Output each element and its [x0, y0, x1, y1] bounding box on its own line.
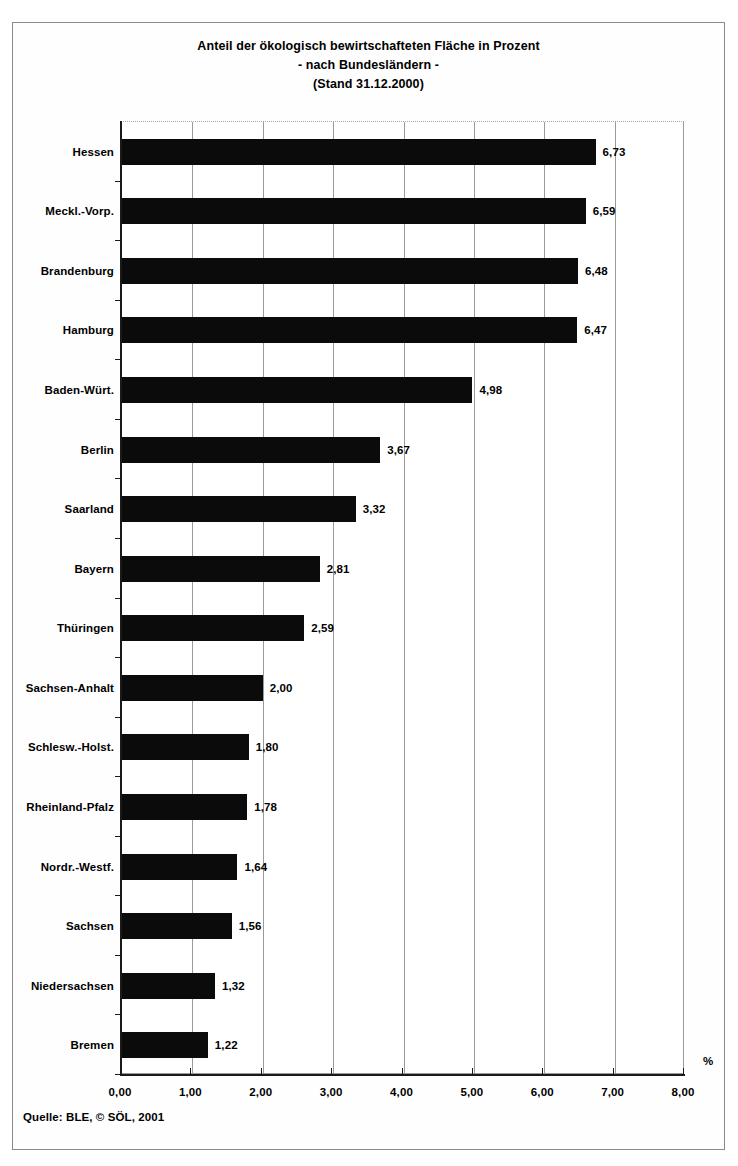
chart-title-line-3: (Stand 31.12.2000) — [13, 75, 724, 94]
bar-row: 1,22 — [122, 1032, 683, 1058]
plot-area: 6,736,596,486,474,983,673,322,812,592,00… — [121, 121, 684, 1074]
bar-row: 6,47 — [122, 317, 683, 343]
category-label: Hessen — [0, 146, 114, 158]
x-axis-tick-label: 8,00 — [672, 1086, 695, 1098]
bar-value-label: 6,73 — [603, 146, 626, 158]
category-label: Brandenburg — [0, 265, 114, 277]
x-axis-tick-label: 3,00 — [320, 1086, 343, 1098]
bar-row: 1,32 — [122, 973, 683, 999]
bar-row: 3,67 — [122, 437, 683, 463]
y-axis-tick — [115, 419, 120, 420]
y-axis-tick — [115, 240, 120, 241]
x-axis-tick-label: 1,00 — [179, 1086, 202, 1098]
x-axis-tick — [542, 1068, 543, 1076]
chart-title-line-1: Anteil der ökologisch bewirtschafteten F… — [13, 37, 724, 56]
bar — [122, 854, 237, 880]
bar — [122, 437, 380, 463]
x-axis-tick-label: 6,00 — [531, 1086, 554, 1098]
x-axis-tick-label: 2,00 — [249, 1086, 272, 1098]
bar-row: 6,59 — [122, 198, 683, 224]
source-note: Quelle: BLE, © SÖL, 2001 — [23, 1111, 164, 1123]
y-axis-tick — [115, 359, 120, 360]
bar-value-label: 1,32 — [222, 980, 245, 992]
bar-value-label: 1,78 — [254, 801, 277, 813]
y-axis-tick — [115, 836, 120, 837]
bar-value-label: 3,32 — [363, 503, 386, 515]
category-label: Thüringen — [0, 622, 114, 634]
x-axis-tick — [120, 1068, 121, 1076]
bar — [122, 556, 320, 582]
category-label: Saarland — [0, 503, 114, 515]
page-frame: Anteil der ökologisch bewirtschafteten F… — [12, 22, 725, 1150]
bar — [122, 258, 578, 284]
x-axis-tick — [190, 1068, 191, 1076]
bar-row: 2,00 — [122, 675, 683, 701]
bar — [122, 615, 304, 641]
x-axis-tick — [613, 1068, 614, 1076]
bar — [122, 913, 232, 939]
x-axis-tick-label: 0,00 — [109, 1086, 132, 1098]
bar-value-label: 2,81 — [327, 563, 350, 575]
bar-row: 2,81 — [122, 556, 683, 582]
bar-value-label: 4,98 — [479, 384, 502, 396]
bar-value-label: 1,80 — [256, 741, 279, 753]
bar-value-label: 2,00 — [270, 682, 293, 694]
x-axis-tick — [472, 1068, 473, 1076]
bar-row: 6,73 — [122, 139, 683, 165]
bar-value-label: 3,67 — [387, 444, 410, 456]
y-axis-tick — [115, 955, 120, 956]
bar — [122, 317, 577, 343]
x-axis-tick — [261, 1068, 262, 1076]
category-label: Bremen — [0, 1039, 114, 1051]
y-axis-tick — [115, 657, 120, 658]
bar — [122, 973, 215, 999]
y-axis-tick — [115, 776, 120, 777]
category-axis-labels: HessenMeckl.-Vorp.BrandenburgHamburgBade… — [0, 122, 114, 1075]
bar-row: 1,80 — [122, 734, 683, 760]
bar-row: 1,56 — [122, 913, 683, 939]
bar-value-label: 1,22 — [215, 1039, 238, 1051]
category-label: Rheinland-Pfalz — [0, 801, 114, 813]
bar-value-label: 6,48 — [585, 265, 608, 277]
x-axis-tick — [402, 1068, 403, 1076]
bar — [122, 139, 596, 165]
bar-value-label: 6,47 — [584, 324, 607, 336]
category-label: Schlesw.-Holst. — [0, 741, 114, 753]
bar-value-label: 1,56 — [239, 920, 262, 932]
bar-row: 1,64 — [122, 854, 683, 880]
x-axis-tick-label: 7,00 — [601, 1086, 624, 1098]
category-label: Niedersachsen — [0, 980, 114, 992]
x-axis-tick — [331, 1068, 332, 1076]
y-axis-tick — [115, 717, 120, 718]
bar — [122, 377, 472, 403]
x-axis-spine — [120, 1074, 685, 1076]
bar — [122, 496, 356, 522]
category-label: Meckl.-Vorp. — [0, 205, 114, 217]
bar — [122, 1032, 208, 1058]
chart-title: Anteil der ökologisch bewirtschafteten F… — [13, 37, 724, 94]
chart-title-line-2: - nach Bundesländern - — [13, 56, 724, 75]
bar — [122, 675, 263, 701]
bar — [122, 734, 249, 760]
y-axis-tick — [115, 181, 120, 182]
category-label: Bayern — [0, 563, 114, 575]
bar-value-label: 1,64 — [244, 861, 267, 873]
y-axis-tick — [115, 598, 120, 599]
category-label: Baden-Würt. — [0, 384, 114, 396]
bar — [122, 198, 586, 224]
y-axis-tick — [115, 1014, 120, 1015]
x-axis-unit-label: % — [703, 1055, 713, 1067]
y-axis-tick — [115, 538, 120, 539]
x-axis-tick-label: 4,00 — [390, 1086, 413, 1098]
bar-value-label: 6,59 — [593, 205, 616, 217]
y-axis-spine — [120, 121, 122, 1076]
bar-row: 3,32 — [122, 496, 683, 522]
bar — [122, 794, 247, 820]
x-axis-tick — [683, 1068, 684, 1076]
y-axis-tick — [115, 478, 120, 479]
bar-row: 2,59 — [122, 615, 683, 641]
y-axis-tick — [115, 300, 120, 301]
bar-value-label: 2,59 — [311, 622, 334, 634]
x-axis-tick-label: 5,00 — [460, 1086, 483, 1098]
bar-row: 1,78 — [122, 794, 683, 820]
